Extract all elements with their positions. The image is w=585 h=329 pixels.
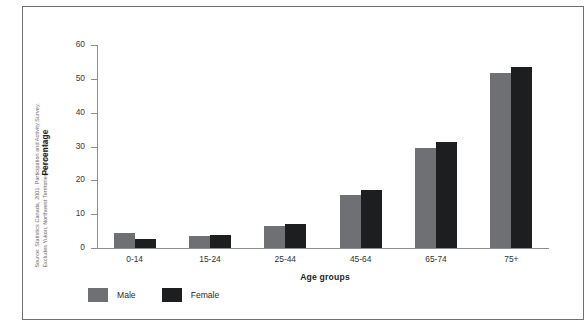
y-tick-label: 20 [55, 174, 85, 184]
bar-male-25-44[interactable] [264, 226, 285, 248]
x-tick-label-25-44: 25-44 [250, 254, 320, 264]
y-tick-label: 40 [55, 107, 85, 117]
bar-female-65-74[interactable] [436, 142, 457, 248]
bar-male-65-74[interactable] [415, 148, 436, 248]
x-axis-line [97, 248, 549, 249]
legend-item-female[interactable]: Female [162, 288, 220, 302]
legend-label-male: Male [117, 290, 136, 300]
legend-swatch-female-icon [162, 288, 182, 302]
bar-female-45-64[interactable] [361, 190, 382, 248]
y-tick-label: 0 [55, 242, 85, 252]
y-tick-mark [91, 147, 97, 148]
x-tick-label-65-74: 65-74 [401, 254, 471, 264]
bar-chart: Percentage 0102030405060 0-1415-2425-444… [0, 0, 585, 329]
bar-female-25-44[interactable] [285, 224, 306, 248]
chart-legend: Male Female [88, 288, 245, 302]
y-tick-mark [91, 214, 97, 215]
y-axis-line [97, 45, 98, 249]
bar-female-0-14[interactable] [135, 239, 156, 248]
y-tick-mark [91, 45, 97, 46]
x-tick-label-75+: 75+ [476, 254, 546, 264]
y-tick-mark [91, 248, 97, 249]
y-tick-mark [91, 79, 97, 80]
bar-female-75+[interactable] [511, 67, 532, 248]
x-tick-label-0-14: 0-14 [100, 254, 170, 264]
x-tick-label-15-24: 15-24 [175, 254, 245, 264]
y-tick-mark [91, 180, 97, 181]
bar-male-15-24[interactable] [189, 236, 210, 248]
legend-swatch-male-icon [88, 288, 108, 302]
y-tick-mark [91, 113, 97, 114]
legend-item-male[interactable]: Male [88, 288, 136, 302]
x-axis-title: Age groups [205, 272, 445, 282]
x-tick-label-45-64: 45-64 [326, 254, 396, 264]
y-tick-label: 60 [55, 39, 85, 49]
y-axis-title: Percentage [41, 98, 50, 208]
bar-male-75+[interactable] [490, 73, 511, 248]
legend-label-female: Female [191, 290, 220, 300]
bar-male-0-14[interactable] [114, 233, 135, 248]
bar-male-45-64[interactable] [340, 195, 361, 248]
y-tick-label: 30 [55, 141, 85, 151]
bar-female-15-24[interactable] [210, 235, 231, 248]
y-tick-label: 10 [55, 208, 85, 218]
y-tick-label: 50 [55, 73, 85, 83]
